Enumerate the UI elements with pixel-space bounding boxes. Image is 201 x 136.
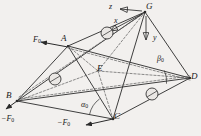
axis-z-arrow bbox=[120, 9, 142, 11]
force-arrow-negF0-at-B bbox=[6, 101, 17, 109]
axis-label-x: x bbox=[114, 17, 118, 25]
vertex-label-B: B bbox=[6, 91, 12, 100]
vertex-dot-A bbox=[67, 45, 69, 47]
force-label-negF0-at-C-sub: 0 bbox=[67, 121, 70, 127]
vertex-label-G: G bbox=[146, 2, 153, 11]
vertex-dot-B bbox=[16, 100, 19, 103]
vertex-label-D: D bbox=[191, 72, 198, 81]
force-label-negF0-at-B-sub: 0 bbox=[11, 117, 14, 123]
force-label-F0-at-A: F0 bbox=[33, 36, 41, 45]
force-label-negF0-at-C-text: −F bbox=[57, 118, 67, 127]
axis-label-y: y bbox=[153, 34, 157, 42]
edge-A-B bbox=[17, 46, 68, 101]
edge-B-D-inner bbox=[19, 76, 190, 99]
axis-label-z: z bbox=[109, 3, 112, 11]
edge-E-C bbox=[98, 71, 113, 119]
vertex-label-A: A bbox=[61, 34, 67, 43]
vertex-label-E: E bbox=[97, 64, 103, 73]
edge-A-C bbox=[68, 46, 113, 119]
edge-G-E bbox=[98, 12, 145, 71]
force-label-negF0-at-C: −F0 bbox=[57, 119, 70, 128]
mechanics-diagram-figure: G A D B C E z x y F0 −F0 −F0 α0 β0 bbox=[0, 0, 201, 136]
force-label-F0-at-A-sub: 0 bbox=[38, 38, 41, 44]
angle-label-beta0-sub: 0 bbox=[161, 57, 164, 63]
edge-B-D bbox=[17, 78, 190, 101]
force-arrow-negF0-at-C bbox=[86, 119, 113, 125]
angle-arc-alpha0 bbox=[90, 99, 100, 115]
edge-B-C bbox=[17, 101, 113, 119]
angle-label-alpha0: α0 bbox=[81, 101, 88, 110]
angle-label-beta0: β0 bbox=[157, 55, 164, 64]
vertex-dot-G bbox=[144, 11, 147, 14]
vertex-label-C: C bbox=[114, 112, 120, 121]
angle-label-alpha0-sub: 0 bbox=[85, 103, 88, 109]
edge-G-C bbox=[113, 12, 145, 119]
force-label-negF0-at-B: −F0 bbox=[1, 115, 14, 124]
force-label-negF0-at-B-text: −F bbox=[1, 114, 11, 123]
